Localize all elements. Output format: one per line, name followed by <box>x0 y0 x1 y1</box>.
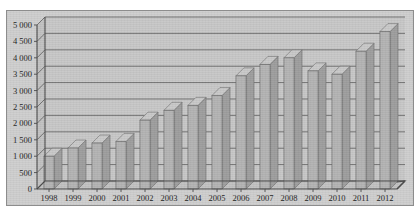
x-tick-label: 2000 <box>89 193 106 203</box>
x-tick-label: 1998 <box>41 193 58 203</box>
bar-1998 <box>44 148 62 189</box>
y-tick-label: 3 500 <box>13 69 32 79</box>
bar-2008 <box>284 50 302 189</box>
x-tick-label: 2003 <box>161 193 178 203</box>
bar-2003 <box>164 102 182 189</box>
bar-2004 <box>188 97 206 189</box>
bar-2002 <box>140 112 158 189</box>
y-tick-label: 5 000 <box>13 20 32 30</box>
x-tick-label: 2006 <box>233 193 250 203</box>
x-tick-label: 2007 <box>257 193 274 203</box>
x-tick-label: 2008 <box>281 193 298 203</box>
screenshot-root: 05001 0001 5002 0002 5003 0003 5004 0004… <box>0 0 420 218</box>
x-tick-label: 2005 <box>209 193 226 203</box>
bar-2012 <box>380 24 398 189</box>
bar-2006 <box>236 68 254 189</box>
bar-chart: 05001 0001 5002 0002 5003 0003 5004 0004… <box>7 11 413 205</box>
y-tick-label: 3 000 <box>13 86 32 96</box>
x-tick-label: 2010 <box>329 193 346 203</box>
bar-1999 <box>68 140 86 189</box>
bar-2010 <box>332 66 350 189</box>
y-tick-label: 2 500 <box>13 102 32 112</box>
y-tick-label: 0 <box>28 184 32 194</box>
x-tick-label: 2004 <box>185 193 203 203</box>
y-tick-label: 500 <box>19 168 32 178</box>
bar-2009 <box>308 63 326 189</box>
x-tick-label: 2011 <box>353 193 370 203</box>
y-tick-label: 4 000 <box>13 53 32 63</box>
chart-frame: 05001 0001 5002 0002 5003 0003 5004 0004… <box>6 10 414 206</box>
bar-2005 <box>212 88 230 189</box>
x-tick-label: 2001 <box>113 193 130 203</box>
y-tick-label: 1 000 <box>13 151 32 161</box>
x-tick-label: 1999 <box>65 193 82 203</box>
x-tick-label: 2009 <box>305 193 322 203</box>
bar-2011 <box>356 43 374 189</box>
y-tick-label: 2 000 <box>13 118 32 128</box>
x-tick-label: 2012 <box>377 193 394 203</box>
bar-2007 <box>260 56 278 189</box>
x-axis-tick-labels: 1998199920002001200220032004200520062007… <box>41 193 394 203</box>
x-tick-label: 2002 <box>137 193 154 203</box>
y-tick-label: 4 500 <box>13 36 32 46</box>
y-axis-tick-labels: 05001 0001 5002 0002 5003 0003 5004 0004… <box>13 20 32 194</box>
y-tick-label: 1 500 <box>13 135 32 145</box>
